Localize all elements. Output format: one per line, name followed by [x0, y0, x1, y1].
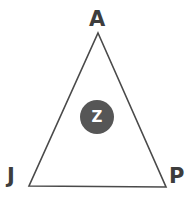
interior-point-label: Z	[92, 110, 103, 125]
vertex-label-j: J	[7, 166, 15, 187]
vertex-label-a: A	[89, 9, 105, 30]
geometry-figure: A J P Z	[0, 0, 196, 208]
vertex-label-p: P	[169, 166, 184, 187]
interior-point-marker: Z	[80, 100, 114, 134]
